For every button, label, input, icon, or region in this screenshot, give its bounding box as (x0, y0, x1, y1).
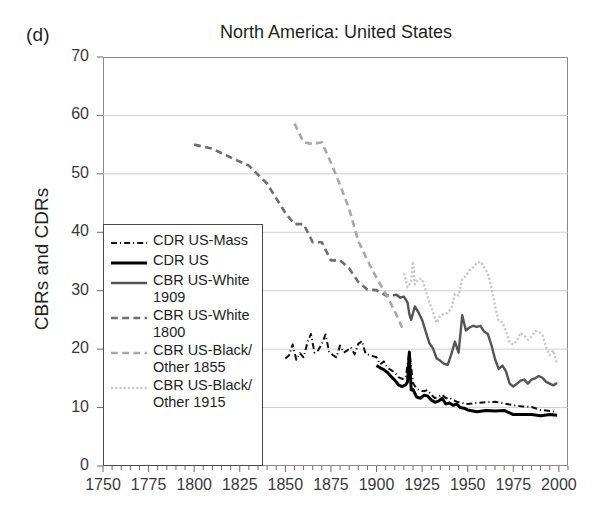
legend-label: CBR US-White 1909 (153, 272, 250, 306)
x-tick-label: 2000 (527, 476, 591, 494)
legend-item[interactable]: CBR US-Black/ Other 1915 (104, 377, 262, 411)
y-tick-label: 10 (43, 398, 89, 416)
legend-item[interactable]: CBR US-White 1909 (104, 272, 262, 306)
series-line-0 (285, 334, 557, 412)
legend-label: CBR US-Black/ Other 1915 (153, 377, 252, 411)
legend-item[interactable]: CBR US-White 1800 (104, 307, 262, 341)
series-line-1 (377, 352, 558, 416)
y-tick-label: 30 (43, 281, 89, 299)
legend-swatch-icon (110, 275, 148, 291)
figure-panel-d: (d) North America: United States CBRs an… (0, 0, 615, 527)
legend-label: CBR US-White 1800 (153, 307, 250, 341)
legend-label: CDR US (153, 252, 209, 269)
chart-legend: CDR US-MassCDR USCBR US-White 1909CBR US… (103, 224, 263, 466)
legend-item[interactable]: CDR US (104, 252, 262, 271)
legend-item[interactable]: CBR US-Black/ Other 1855 (104, 342, 262, 376)
legend-swatch-icon (110, 235, 148, 251)
y-tick-label: 0 (43, 456, 89, 474)
legend-swatch-icon (110, 255, 148, 271)
y-tick-label: 50 (43, 164, 89, 182)
series-line-2 (393, 295, 557, 387)
series-line-4 (294, 124, 403, 332)
chart-canvas (0, 0, 615, 527)
legend-swatch-icon (110, 310, 148, 326)
legend-swatch-icon (110, 345, 148, 361)
y-tick-label: 70 (43, 47, 89, 65)
legend-label: CDR US-Mass (153, 232, 248, 249)
legend-label: CBR US-Black/ Other 1855 (153, 342, 252, 376)
legend-swatch-icon (110, 380, 148, 396)
y-tick-label: 20 (43, 339, 89, 357)
y-tick-label: 60 (43, 105, 89, 123)
legend-item[interactable]: CDR US-Mass (104, 232, 262, 251)
y-tick-label: 40 (43, 222, 89, 240)
